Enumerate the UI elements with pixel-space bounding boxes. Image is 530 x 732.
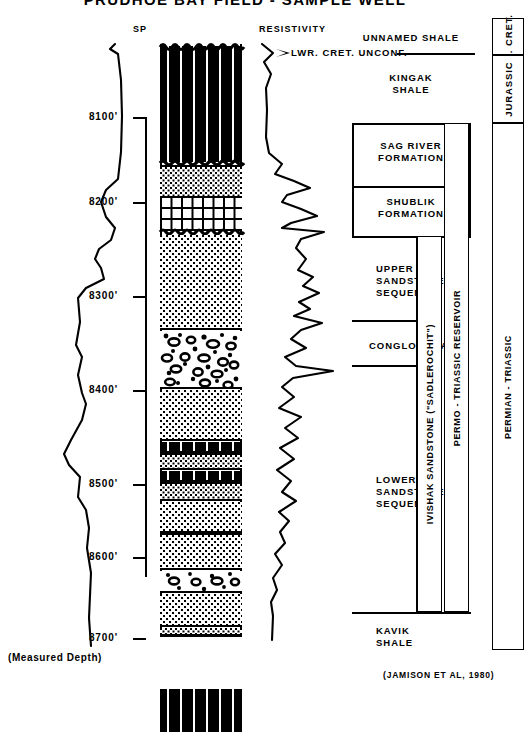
- age-column-lower-cretaceous: L. CRET.: [492, 18, 524, 55]
- lithology-column: [160, 44, 242, 636]
- bed-sandstone-thin: [160, 455, 242, 469]
- age-label: JURASSIC: [503, 61, 514, 116]
- formation-boundary-conglomerate-base: [352, 365, 417, 367]
- formation-line: UNNAMED SHALE: [352, 32, 470, 44]
- bed-upper-sandstone: [160, 235, 242, 329]
- bed-shale-thin: [160, 471, 242, 480]
- formation-line: SHALE: [376, 637, 486, 649]
- source-citation: (JAMISON ET AL, 1980): [383, 670, 494, 680]
- formation-line: KINGAK: [352, 72, 470, 84]
- shublik-base-contact: [160, 228, 242, 235]
- bed-sandstone: [160, 535, 242, 569]
- resistivity-track-label: RESISTIVITY: [259, 24, 326, 34]
- formation-panel-right-edge-2: [469, 186, 471, 237]
- litho-clip-mask: [158, 637, 246, 689]
- bed-sandstone-sagriver: [160, 167, 242, 197]
- bed-edge: [160, 499, 242, 501]
- formation-panel-left-edge: [352, 123, 354, 236]
- bed-edge: [160, 591, 242, 593]
- formation-boundary-conglomerate-top: [352, 320, 417, 322]
- unconformity-arrow-icon: [272, 44, 292, 60]
- bed-edge: [160, 439, 242, 441]
- page-title: PRUDHOE BAY FIELD - SAMPLE WELL: [0, 0, 490, 8]
- conglomerate-pattern: [160, 331, 242, 388]
- formation-label-kingak: KINGAK SHALE: [352, 72, 470, 96]
- formation-label-unnamed-shale: UNNAMED SHALE: [352, 32, 470, 44]
- bed-limestone-shublik: [160, 198, 242, 230]
- unit-label: IVISHAK SANDSTONE ("SADLEROCHIT"): [425, 324, 435, 524]
- unconformity-contact: [160, 42, 242, 49]
- reservoir-age-label: PERMO - TRIASSIC RESERVOIR: [452, 289, 462, 446]
- bed-shale-thin: [160, 442, 242, 451]
- bed-edge: [160, 568, 242, 570]
- formation-line: SHALE: [352, 84, 470, 96]
- bed-sandstone: [160, 390, 242, 440]
- system-label: PERMIAN - TRIASSIC: [503, 334, 513, 438]
- bed-edge: [160, 328, 242, 330]
- formation-boundary-kavik-top: [352, 612, 471, 614]
- unconformity-label: LWR. CRET. UNCONF.: [291, 47, 408, 59]
- formation-panel-right-edge: [469, 123, 471, 187]
- bed-sandstone-thin: [160, 484, 242, 500]
- bed-shale-kingak: [160, 46, 242, 162]
- lithology-base-line: [160, 635, 242, 637]
- age-column-jurassic: JURASSIC: [492, 55, 524, 123]
- bed-edge: [160, 468, 242, 470]
- bed-edge: [160, 625, 242, 627]
- formation-line: KAVIK: [376, 625, 486, 637]
- bed-sandstone: [160, 594, 242, 626]
- bed-sandstone: [160, 502, 242, 532]
- resistivity-curve-panel: [256, 40, 360, 650]
- unit-column-reservoir-age: PERMO - TRIASSIC RESERVOIR: [444, 123, 469, 612]
- sp-curve-panel: [58, 40, 150, 650]
- bed-edge: [160, 165, 242, 167]
- sp-track-label: SP: [133, 24, 147, 34]
- sp-curve: [58, 40, 150, 650]
- resistivity-curve: [256, 40, 360, 650]
- formation-label-kavik: KAVIK SHALE: [376, 625, 486, 649]
- bed-edge: [160, 387, 242, 389]
- bed-conglomerate-upper: [160, 331, 242, 388]
- age-label: L. CRET.: [503, 14, 514, 60]
- unconformity-leader-line: [397, 53, 475, 55]
- bed-conglomerate-lower: [160, 571, 242, 592]
- measured-depth-caption: (Measured Depth): [8, 652, 102, 663]
- unit-column-ivishak: IVISHAK SANDSTONE ("SADLEROCHIT"): [417, 236, 442, 612]
- system-column-permian-triassic: PERMIAN - TRIASSIC: [492, 123, 524, 650]
